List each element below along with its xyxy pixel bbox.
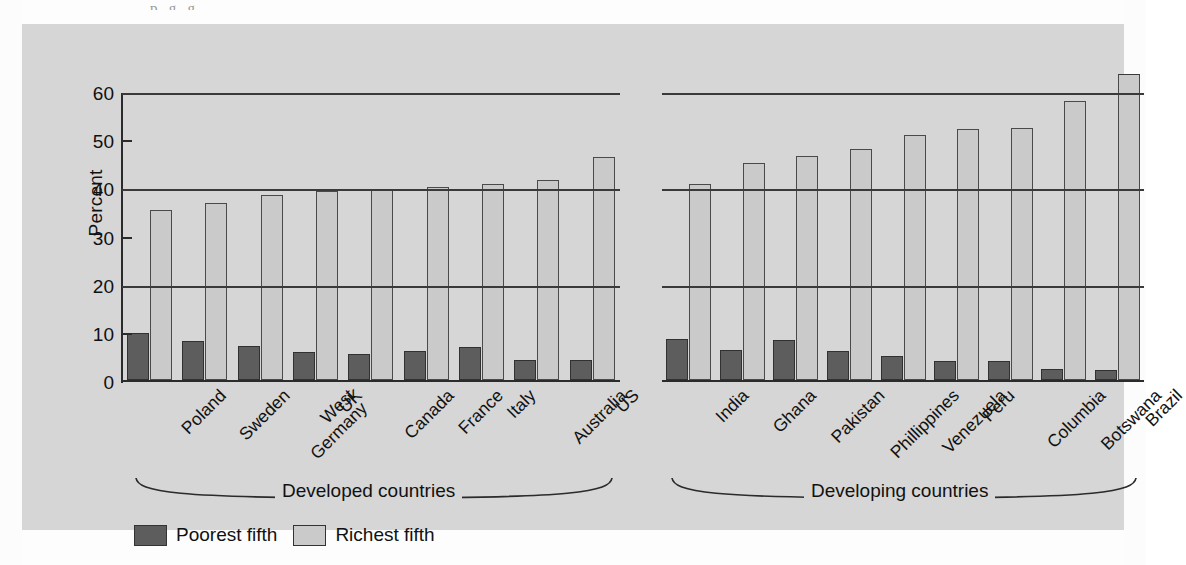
bar-poorest-fifth	[348, 354, 370, 380]
bar-poorest-fifth	[514, 360, 536, 380]
page-left-margin	[0, 0, 22, 565]
bar-richest-fifth	[1011, 128, 1033, 380]
bar-poorest-fifth	[720, 350, 742, 380]
gridline-60	[662, 93, 1144, 95]
light-gray-swatch	[293, 525, 326, 546]
bar-group	[343, 93, 398, 380]
bar-poorest-fifth	[127, 333, 149, 380]
bar-group	[1091, 93, 1145, 380]
dark-gray-swatch	[134, 525, 167, 546]
legend-item: Richest fifth	[293, 524, 434, 546]
gridline-40	[662, 189, 1144, 191]
x-axis-line-developing	[662, 380, 1144, 382]
bar-group	[823, 93, 877, 380]
bar-richest-fifth	[850, 149, 872, 380]
bar-group	[288, 93, 343, 380]
bar-group	[509, 93, 564, 380]
bar-poorest-fifth	[459, 347, 481, 380]
category-label: UK	[328, 386, 352, 404]
bar-group	[177, 93, 232, 380]
group-label-developed: Developed countries	[275, 480, 462, 502]
y-tick-label-60: 60	[74, 84, 114, 103]
bar-richest-fifth	[957, 129, 979, 380]
category-labels-developing: IndiaGhanaPakistanPhillippinesVenezuelaP…	[662, 386, 1144, 478]
category-label: Canada	[383, 386, 444, 404]
bar-group	[769, 93, 823, 380]
gridline-40	[122, 189, 620, 191]
y-tick-label-30: 30	[74, 229, 114, 248]
y-tick-label-50: 50	[74, 132, 114, 151]
y-tick-label-40: 40	[74, 180, 114, 199]
plot-panel-developing	[662, 93, 1144, 382]
category-labels-developed: PolandSwedenWest GermanyUKCanadaFranceIt…	[122, 386, 620, 478]
bar-poorest-fifth	[182, 341, 204, 380]
y-tick-label-0: 0	[74, 373, 114, 392]
bar-poorest-fifth	[773, 340, 795, 380]
bar-poorest-fifth	[666, 339, 688, 380]
category-label-text: Italy	[503, 386, 539, 422]
bar-richest-fifth	[537, 180, 559, 380]
category-label: Poland	[162, 386, 217, 404]
bar-richest-fifth	[427, 187, 449, 380]
bar-group	[930, 93, 984, 380]
bar-group	[662, 93, 716, 380]
y-tick-mark-50	[121, 140, 132, 142]
y-axis-tick-labels: 0102030405060	[74, 24, 114, 530]
category-label: Peru	[968, 386, 1005, 404]
bar-richest-fifth	[482, 184, 504, 380]
y-tick-label-20: 20	[74, 277, 114, 296]
bar-group	[233, 93, 288, 380]
bar-group	[399, 93, 454, 380]
bar-poorest-fifth	[881, 356, 903, 380]
bar-group	[716, 93, 770, 380]
bar-group	[565, 93, 620, 380]
bar-group	[1037, 93, 1091, 380]
y-tick-label-10: 10	[74, 325, 114, 344]
bar-richest-fifth	[205, 203, 227, 380]
category-label-text: India	[712, 386, 752, 426]
bar-poorest-fifth	[934, 361, 956, 380]
bar-poorest-fifth	[404, 351, 426, 380]
bar-group	[454, 93, 509, 380]
category-label: Brazil	[1129, 386, 1173, 404]
bar-richest-fifth	[1064, 101, 1086, 380]
bar-richest-fifth	[1118, 74, 1140, 380]
bar-richest-fifth	[689, 184, 711, 380]
group-label-developing: Developing countries	[804, 480, 995, 502]
gridline-20	[122, 286, 620, 288]
y-tick-mark-30	[121, 237, 132, 239]
bar-richest-fifth	[904, 135, 926, 380]
gridline-60	[122, 93, 620, 95]
category-label: Italy	[494, 386, 526, 404]
legend-label: Poorest fifth	[176, 524, 277, 546]
caption-text-descenders: p , g , g , ,	[150, 0, 850, 10]
plot-panel-developed	[122, 93, 620, 382]
bar-poorest-fifth	[1095, 370, 1117, 380]
legend-label: Richest fifth	[335, 524, 434, 546]
bar-group	[876, 93, 930, 380]
category-label-text: Brazil	[1142, 386, 1186, 430]
category-label: France	[439, 386, 493, 404]
bar-poorest-fifth	[1041, 369, 1063, 380]
category-label: US	[605, 386, 629, 404]
legend-item: Poorest fifth	[134, 524, 277, 546]
figure-panel: Percent 0102030405060 PolandSwedenWest G…	[22, 24, 1124, 530]
category-label: India	[701, 386, 739, 404]
bar-poorest-fifth	[293, 352, 315, 380]
y-tick-mark-10	[121, 333, 132, 335]
legend: Poorest fifthRichest fifth	[134, 524, 435, 546]
bar-poorest-fifth	[827, 351, 849, 380]
x-axis-line-developed	[122, 380, 620, 382]
bar-richest-fifth	[743, 163, 765, 380]
bar-richest-fifth	[150, 210, 172, 380]
bar-group-container-developing	[662, 93, 1144, 380]
category-label-text: Peru	[979, 386, 1018, 425]
gridline-20	[662, 286, 1144, 288]
bar-poorest-fifth	[570, 360, 592, 380]
category-label: Sweden	[217, 386, 280, 404]
category-label: Ghana	[754, 386, 807, 404]
bar-group	[983, 93, 1037, 380]
bar-group-container-developed	[122, 93, 620, 380]
bar-poorest-fifth	[238, 346, 260, 380]
bar-poorest-fifth	[988, 361, 1010, 380]
